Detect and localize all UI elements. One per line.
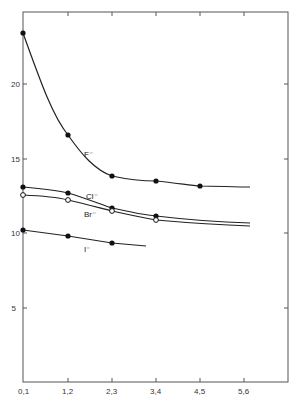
- x-tick-label: 5,6: [238, 387, 250, 396]
- series-br-label: Br⁻: [84, 210, 96, 219]
- series-i-markers: [20, 227, 114, 245]
- chart: 0,1 1,2 2,3 3,4 4,5 5,6 5 10 15 20 F⁻ Cl…: [0, 0, 298, 403]
- series-f-line: [23, 33, 250, 187]
- series-i-line: [23, 230, 146, 246]
- y-tick-label: 15: [11, 155, 20, 164]
- y-tick-label: 10: [11, 229, 20, 238]
- x-tick-label: 4,5: [194, 387, 206, 396]
- series-f-label: F⁻: [84, 150, 93, 159]
- series-f-markers: [20, 30, 202, 188]
- plot-frame: [23, 12, 288, 382]
- x-tick-label: 2,3: [106, 387, 118, 396]
- y-ticks: [23, 84, 288, 308]
- series-cl-label: Cl⁻: [86, 192, 98, 201]
- x-tick-label: 1,2: [62, 387, 74, 396]
- y-tick-label: 5: [12, 304, 17, 313]
- y-tick-label: 20: [11, 80, 20, 89]
- series-cl-line: [23, 187, 250, 223]
- x-tick-label: 0,1: [18, 387, 30, 396]
- x-tick-label: 3,4: [150, 387, 162, 396]
- series-i-label: I⁻: [84, 245, 90, 254]
